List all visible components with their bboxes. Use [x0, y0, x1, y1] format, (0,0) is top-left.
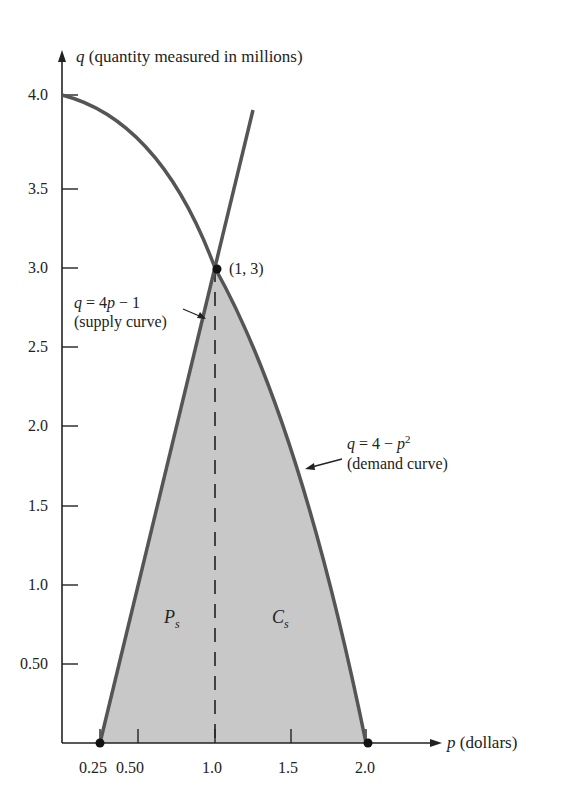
y-tick-label: 2.5 — [28, 338, 48, 356]
demand-equation: q = 4 − p2 — [347, 433, 411, 453]
x-axis-var: p — [447, 733, 456, 752]
y-tick-label: 4.0 — [28, 86, 48, 104]
y-axis-var: q — [76, 47, 85, 66]
x-tick-label: 1.0 — [202, 759, 222, 777]
chart-canvas — [0, 0, 562, 806]
demand-eq-exp: 2 — [405, 433, 411, 445]
y-axis-text: (quantity measured in millions) — [89, 47, 303, 66]
demand-name: (demand curve) — [347, 455, 448, 473]
y-tick-label: 0.50 — [20, 655, 48, 673]
demand-eq-p: p — [397, 435, 405, 452]
y-tick-label: 3.5 — [28, 180, 48, 198]
surplus-shaded-region — [100, 268, 366, 743]
y-tick-label: 1.5 — [28, 497, 48, 515]
cs-main: C — [272, 607, 284, 627]
x-axis-text: (dollars) — [460, 733, 518, 752]
supply-eq-p: p — [107, 294, 115, 311]
producer-surplus-label: Ps — [164, 608, 180, 631]
y-tick-label: 1.0 — [28, 576, 48, 594]
ps-main: P — [164, 607, 175, 627]
x-tick-label: 0.25 — [79, 759, 107, 777]
x-axis-arrow-icon — [430, 739, 442, 747]
x-axis-label: p (dollars) — [447, 734, 517, 753]
consumer-surplus-label: Cs — [272, 608, 289, 631]
x-tick-label: 1.5 — [278, 759, 298, 777]
supply-name: (supply curve) — [74, 313, 167, 331]
x-tick-label: 2.0 — [355, 759, 375, 777]
demand-intercept-point — [364, 739, 373, 748]
demand-eq-q: q — [347, 435, 355, 452]
y-ticks — [62, 95, 78, 664]
demand-arrow-head-icon — [305, 463, 315, 470]
supply-eq-mid: = 4 — [82, 294, 107, 311]
y-axis-label: q (quantity measured in millions) — [76, 48, 303, 67]
equilibrium-point — [213, 265, 222, 274]
y-axis-arrow-icon — [58, 50, 66, 62]
cs-sub: s — [284, 617, 289, 631]
demand-eq-mid: = 4 − — [355, 435, 397, 452]
y-tick-label: 3.0 — [28, 259, 48, 277]
ps-sub: s — [175, 617, 180, 631]
equilibrium-label: (1, 3) — [229, 260, 264, 278]
y-tick-label: 2.0 — [28, 417, 48, 435]
supply-eq-q: q — [74, 294, 82, 311]
supply-eq-end: − 1 — [115, 294, 140, 311]
supply-equation: q = 4p − 1 — [74, 294, 140, 312]
x-tick-label: 0.50 — [116, 759, 144, 777]
supply-intercept-point — [96, 739, 105, 748]
